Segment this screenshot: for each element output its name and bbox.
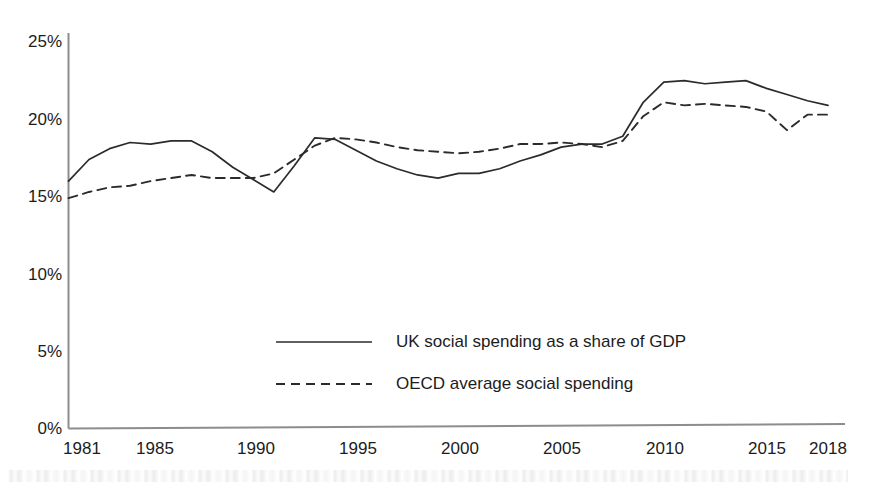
legend-label-oecd: OECD average social spending [396,374,633,394]
legend-line-dashed-icon [276,378,372,390]
legend-label-uk: UK social spending as a share of GDP [396,332,686,352]
x-tick-2010: 2010 [646,440,684,457]
line-chart-figure: 25% 20% 15% 10% 5% 0% 1981 1985 1990 199… [0,0,870,489]
legend-item-oecd: OECD average social spending [276,363,716,405]
x-tick-1990: 1990 [237,440,275,457]
legend-line-solid-icon [276,336,372,348]
x-tick-2015: 2015 [748,440,786,457]
chart-legend: UK social spending as a share of GDP OEC… [276,321,716,405]
chart-screenshot: 25% 20% 15% 10% 5% 0% 1981 1985 1990 199… [0,0,870,489]
x-tick-1981: 1981 [63,440,101,457]
x-tick-2018: 2018 [809,440,847,457]
x-axis-tick-labels: 1981 1985 1990 1995 2000 2005 2010 2015 … [0,0,870,489]
x-tick-2000: 2000 [441,440,479,457]
x-tick-1985: 1985 [136,440,174,457]
x-tick-2005: 2005 [543,440,581,457]
scan-artifact-smudge [8,470,848,482]
x-tick-1995: 1995 [339,440,377,457]
legend-item-uk: UK social spending as a share of GDP [276,321,716,363]
